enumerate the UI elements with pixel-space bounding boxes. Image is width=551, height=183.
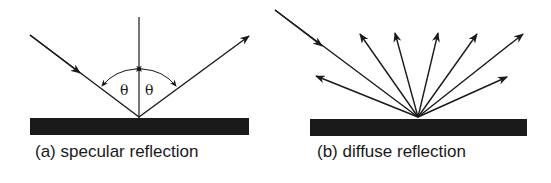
theta-label-left: θ <box>120 82 128 98</box>
surface-bar-a <box>30 118 249 135</box>
theta-label-right: θ <box>145 82 153 98</box>
diffuse-panel <box>275 10 527 136</box>
reflection-diagram: θ θ (a) specular reflection (b) diffuse … <box>0 0 551 183</box>
diffuse-ray-1 <box>316 76 418 117</box>
incident-arrow-a <box>30 35 80 73</box>
incident-arrow-b <box>275 10 322 46</box>
angle-arc-left <box>102 69 136 86</box>
diffuse-ray-2 <box>360 34 418 117</box>
diffuse-ray-3 <box>395 33 418 117</box>
caption-specular: (a) specular reflection <box>35 142 198 162</box>
diffuse-ray-5 <box>418 34 477 117</box>
specular-panel <box>30 17 249 135</box>
diffuse-ray-7 <box>418 77 507 117</box>
reflected-ray-a <box>139 36 249 117</box>
surface-bar-b <box>310 119 527 136</box>
diffuse-ray-6 <box>418 34 523 117</box>
caption-diffuse: (b) diffuse reflection <box>317 142 466 162</box>
